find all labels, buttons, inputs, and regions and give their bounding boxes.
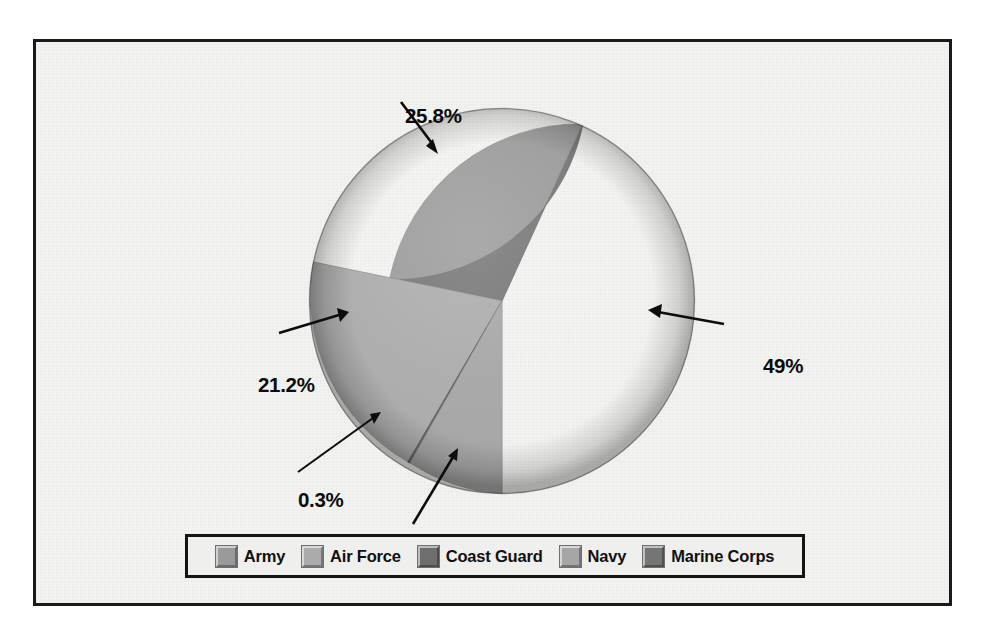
pie-label-coast-guard: 0.3% — [298, 488, 344, 512]
legend-swatch-navy — [560, 546, 581, 567]
chart-legend: Army Air Force Coast Guard Navy Marine C… — [185, 534, 805, 578]
pie-chart — [298, 104, 706, 514]
pie-label-air-force: 21.2% — [258, 373, 315, 397]
legend-label-navy: Navy — [588, 547, 627, 566]
legend-item-army: Army — [216, 546, 285, 567]
legend-label-air-force: Air Force — [330, 547, 401, 566]
legend-swatch-air-force — [302, 546, 323, 567]
legend-label-army: Army — [244, 547, 285, 566]
legend-label-coast-guard: Coast Guard — [446, 547, 543, 566]
pie-label-army: 49% — [763, 354, 803, 378]
legend-item-coast-guard: Coast Guard — [418, 546, 543, 567]
legend-item-marine-corps: Marine Corps — [643, 546, 774, 567]
pie-label-marine-corps: 25.8% — [405, 104, 462, 128]
legend-label-marine-corps: Marine Corps — [671, 547, 774, 566]
legend-item-navy: Navy — [560, 546, 627, 567]
legend-swatch-army — [216, 546, 237, 567]
legend-swatch-marine-corps — [643, 546, 664, 567]
pie-chart-svg — [298, 104, 706, 514]
legend-item-air-force: Air Force — [302, 546, 401, 567]
chart-panel: 25.8% 49% 21.2% 13% 0.3% Army Air Force … — [33, 39, 952, 606]
legend-swatch-coast-guard — [418, 546, 439, 567]
pie-slices — [309, 108, 695, 494]
